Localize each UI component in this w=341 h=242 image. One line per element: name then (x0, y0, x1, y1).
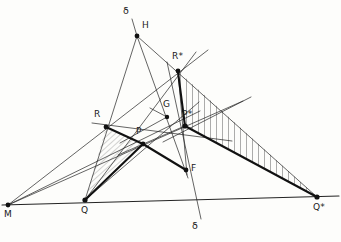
point-H (135, 34, 140, 39)
point-Qstar (314, 194, 319, 199)
point-R (104, 125, 109, 130)
label-Rstar: R* (172, 52, 183, 61)
label-H: H (142, 21, 149, 30)
line-base-M-Qstar (2, 196, 339, 205)
line-G-down-left (120, 117, 167, 143)
label-R: R (94, 110, 100, 119)
label-Qstar: Q* (313, 203, 325, 212)
point-F (184, 168, 189, 173)
label-F: F (191, 164, 196, 173)
label-G: G (163, 100, 170, 109)
point-M (6, 203, 11, 208)
label-delta-top: δ (123, 6, 129, 16)
point-G (165, 115, 169, 119)
label-M: M (4, 210, 12, 219)
point-markers (6, 34, 320, 208)
line-M-Pstar-ext (8, 101, 243, 205)
point-Pstar (182, 123, 187, 128)
point-P (141, 142, 146, 147)
line-delta-top-H (132, 19, 137, 36)
label-Q: Q (81, 206, 88, 215)
hatch-small-triangle (85, 127, 143, 200)
thin-construction-lines (2, 19, 339, 219)
figure-canvas: δ H R* R P G P* F M Q Q* δ (0, 0, 341, 242)
label-P: P (136, 127, 142, 136)
label-delta-bottom: δ (192, 221, 198, 231)
point-Rstar (176, 69, 181, 74)
line-H-Qstar (137, 36, 317, 197)
label-Pstar: P* (182, 110, 192, 119)
geometry-diagram (0, 0, 341, 242)
line-M-G-ext (8, 111, 200, 205)
seg-Pstar-Qstar (185, 126, 317, 197)
seg-P-F (143, 144, 186, 170)
point-Q (82, 197, 87, 202)
